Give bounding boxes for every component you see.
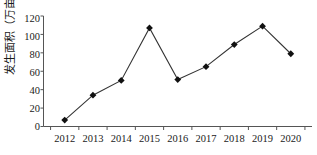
plot-area bbox=[0, 0, 317, 155]
x-axis-ticks bbox=[51, 127, 305, 131]
series-line-occurrence-area bbox=[65, 26, 291, 120]
line-chart: 发生面积（万亩） 120 100 80 60 40 20 0 2012 2013… bbox=[0, 0, 317, 155]
axes bbox=[41, 16, 313, 130]
data-point-2015 bbox=[146, 25, 153, 32]
data-point-2014 bbox=[118, 77, 125, 84]
series-markers-occurrence-area bbox=[61, 23, 294, 124]
data-point-2016 bbox=[174, 76, 181, 83]
